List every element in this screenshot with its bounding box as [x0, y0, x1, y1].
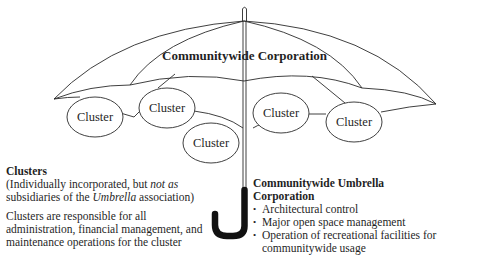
umbrella-tip [243, 7, 247, 21]
corporation-heading-line1: Communitywide Umbrella [253, 177, 473, 190]
clusters-note: (Individually incorporated, but not as s… [6, 178, 246, 204]
list-item: Major open space management [253, 216, 473, 229]
canopy-edge-3 [244, 76, 362, 88]
cluster-group [67, 88, 382, 163]
clusters-description: Clusters are responsible for all adminis… [6, 210, 211, 249]
canopy-label: Communitywide Corporation [162, 48, 327, 64]
cluster-label: Cluster [336, 115, 373, 129]
clusters-panel: Clusters (Individually incorporated, but… [6, 165, 246, 249]
list-item: Operation of recreational facilities for… [253, 229, 462, 255]
corporation-panel: Communitywide Umbrella Corporation Archi… [253, 177, 473, 255]
cluster-label: Cluster [193, 136, 230, 150]
cluster-label: Cluster [149, 101, 186, 115]
canopy-edge-4 [362, 88, 436, 104]
cluster-label: Cluster [77, 110, 114, 124]
list-item: Architectural control [253, 203, 473, 216]
clusters-heading: Clusters [6, 165, 246, 178]
corporation-heading-line2: Corporation [253, 190, 473, 203]
cluster-label: Cluster [263, 106, 300, 120]
canopy-edge-2 [130, 76, 244, 85]
corporation-responsibilities: Architectural control Major open space m… [253, 203, 473, 255]
